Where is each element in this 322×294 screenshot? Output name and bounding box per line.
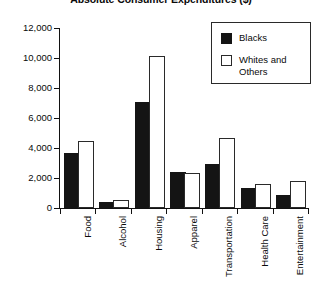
bar-whites-and-others [290, 181, 306, 208]
x-axis-tick [308, 208, 309, 214]
bar-whites-and-others [184, 173, 200, 208]
bar-whites-and-others [78, 141, 94, 208]
x-axis-category-label: Alcohol [118, 216, 128, 247]
y-axis-labels: 02,0004,0006,0008,00010,00012,000 [0, 0, 52, 294]
x-axis-category-label: Health Care [260, 216, 270, 267]
y-axis-tick [54, 58, 60, 59]
x-axis-line [59, 208, 309, 209]
bar-group [99, 28, 127, 208]
x-axis-tick [202, 208, 203, 214]
x-axis-category-label: Entertainment [295, 216, 305, 275]
bar-whites-and-others [219, 138, 235, 208]
legend-label-blacks: Blacks [239, 32, 309, 44]
y-axis-tick-label: 4,000 [2, 143, 52, 153]
legend-item-blacks: Blacks [221, 32, 309, 44]
bar-whites-and-others [255, 184, 271, 208]
bar-chart: Absolute Consumer Expenditures ($) 02,00… [0, 0, 322, 294]
x-axis-tick [60, 208, 61, 214]
legend-item-whites-and-others: Whites and Others [221, 54, 309, 77]
x-axis-tick [166, 208, 167, 214]
bar-group [64, 28, 92, 208]
y-axis-tick [54, 148, 60, 149]
y-axis-tick-label: 6,000 [2, 113, 52, 123]
y-axis-tick-label: 2,000 [2, 173, 52, 183]
y-axis-tick-label: 0 [2, 203, 52, 213]
x-axis-tick [95, 208, 96, 214]
y-axis-tick-label: 12,000 [2, 23, 52, 33]
y-axis-tick [54, 118, 60, 119]
x-axis-category-label: Transportation [224, 216, 234, 277]
y-axis-tick [54, 88, 60, 89]
x-axis-category-label: Housing [154, 216, 164, 251]
y-axis-tick [54, 28, 60, 29]
y-axis-tick-label: 8,000 [2, 83, 52, 93]
bar-group [135, 28, 163, 208]
y-axis-tick-label: 10,000 [2, 53, 52, 63]
legend-swatch-whites-icon [221, 55, 232, 66]
bar-whites-and-others [149, 56, 165, 208]
bar-group [170, 28, 198, 208]
x-axis-tick [237, 208, 238, 214]
x-axis-category-label: Food [83, 216, 93, 238]
x-axis-tick [273, 208, 274, 214]
x-axis-category-label: Apparel [189, 216, 199, 249]
legend-swatch-blacks-icon [221, 33, 232, 44]
legend-label-whites-and-others: Whites and Others [239, 54, 309, 77]
y-axis-tick [54, 178, 60, 179]
bar-whites-and-others [113, 200, 129, 208]
x-axis-tick [131, 208, 132, 214]
chart-legend: Blacks Whites and Others [211, 22, 311, 84]
